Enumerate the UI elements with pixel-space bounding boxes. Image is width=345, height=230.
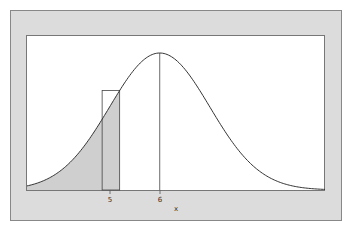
x-axis-label: x <box>174 205 178 213</box>
tick-label-5: 5 <box>108 196 112 204</box>
chart-canvas: 5 6 x <box>0 0 345 230</box>
tick-label-6: 6 <box>158 196 163 204</box>
